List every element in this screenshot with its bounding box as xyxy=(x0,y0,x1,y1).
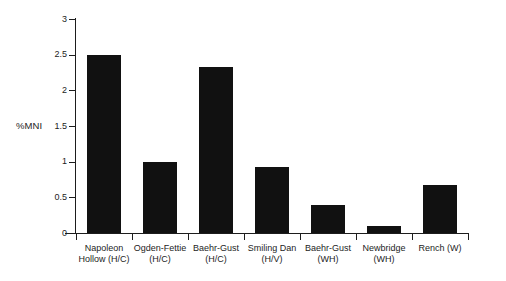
y-tick-mark xyxy=(69,55,76,56)
y-tick-mark xyxy=(69,126,76,127)
y-tick-label: 0.5 xyxy=(27,193,67,202)
bar xyxy=(423,185,457,233)
y-tick-mark xyxy=(69,19,76,20)
x-axis-line xyxy=(65,233,469,234)
y-tick-label: 2.5 xyxy=(27,50,67,59)
x-tick-mark xyxy=(412,234,413,240)
x-category-label: Rench (W) xyxy=(406,243,474,254)
y-tick-label: 1 xyxy=(27,157,67,166)
bar xyxy=(255,167,289,233)
y-tick-label: 2 xyxy=(27,86,67,95)
y-axis-tick-labels: 00.511.522.53 xyxy=(22,0,67,281)
x-tick-mark xyxy=(300,234,301,240)
x-tick-mark xyxy=(76,234,77,240)
x-tick-mark xyxy=(468,234,469,240)
y-tick-label: 3 xyxy=(27,15,67,24)
y-tick-label: 0 xyxy=(27,229,67,238)
bar-chart: %MNI 00.511.522.53 Napoleon Hollow (H/C)… xyxy=(0,0,506,281)
x-tick-mark xyxy=(188,234,189,240)
bar xyxy=(311,205,345,233)
bar xyxy=(87,55,121,233)
y-tick-mark xyxy=(69,233,76,234)
y-tick-mark xyxy=(69,90,76,91)
x-tick-mark xyxy=(132,234,133,240)
y-tick-label: 1.5 xyxy=(27,122,67,131)
x-tick-mark xyxy=(356,234,357,240)
bar xyxy=(367,226,401,233)
bar xyxy=(199,67,233,233)
plot-area xyxy=(76,19,468,233)
y-tick-mark xyxy=(69,162,76,163)
y-tick-mark xyxy=(69,197,76,198)
bar xyxy=(143,162,177,233)
x-tick-mark xyxy=(244,234,245,240)
